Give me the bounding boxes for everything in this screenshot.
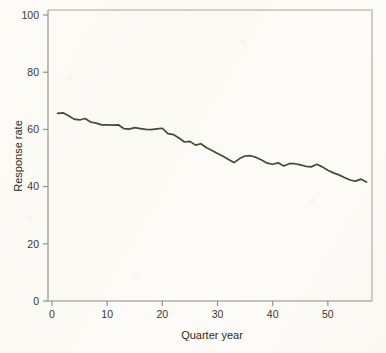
x-axis-ticks: 01020304050 (49, 301, 334, 320)
x-tick-label: 40 (267, 308, 279, 320)
x-tick-label: 0 (49, 308, 55, 320)
x-tick-label: 30 (212, 308, 224, 320)
frame-top-right-border (48, 10, 372, 301)
x-tick-label: 20 (157, 308, 169, 320)
y-tick-label: 60 (27, 123, 39, 135)
response-rate-series-line (58, 113, 367, 182)
response-rate-line-chart: 020406080100 01020304050 Response rate Q… (0, 0, 386, 353)
plot-frame (48, 10, 372, 301)
x-tick-label: 10 (101, 308, 113, 320)
y-tick-label: 80 (27, 66, 39, 78)
chart-background (0, 0, 386, 353)
y-axis-ticks: 020406080100 (21, 9, 48, 307)
chart-figure: 020406080100 01020304050 Response rate Q… (0, 0, 386, 353)
y-tick-label: 40 (27, 180, 39, 192)
y-axis-title: Response rate (12, 120, 24, 192)
x-tick-label: 50 (322, 308, 334, 320)
x-axis-title: Quarter year (181, 329, 243, 341)
y-tick-label: 100 (21, 9, 39, 21)
y-tick-label: 0 (33, 295, 39, 307)
y-tick-label: 20 (27, 238, 39, 250)
